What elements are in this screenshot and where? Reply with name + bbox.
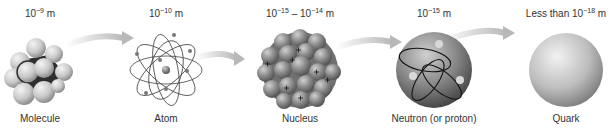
arrow-icon: [66, 31, 134, 46]
neutron-icon: [396, 32, 472, 108]
nucleus-icon: [257, 29, 341, 109]
label-molecule: Molecule: [20, 113, 60, 124]
scale-label-molecule: 10−9 m: [25, 8, 55, 19]
arrow-icon: [336, 35, 402, 49]
scale-label-neutron: 10−15 m: [417, 8, 451, 19]
label-neutron: Neutron (or proton): [391, 113, 476, 124]
atom-icon: [129, 32, 202, 107]
scale-label-nucleus: 10−15 – 10−14 m: [266, 8, 334, 19]
scale-label-quark: Less than 10−18 m: [526, 8, 606, 19]
molecule-icon: [4, 38, 73, 105]
label-nucleus: Nucleus: [282, 113, 318, 124]
diagram-graphics: [0, 0, 611, 129]
arrow-icon: [196, 51, 245, 66]
label-quark: Quark: [552, 113, 579, 124]
label-atom: Atom: [154, 113, 177, 124]
quark-icon: [529, 33, 603, 107]
scale-label-atom: 10−10 m: [149, 8, 183, 19]
scale-of-matter-diagram: 10−9 m 10−10 m 10−15 – 10−14 m 10−15 m L…: [0, 0, 611, 129]
